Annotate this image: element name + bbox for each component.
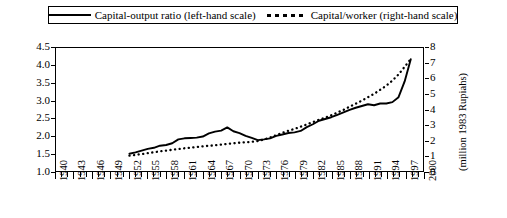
- y-axis-left-tick-label: 2.0: [24, 130, 50, 141]
- y-axis-right-tick-mark: [425, 125, 429, 126]
- x-axis-tick-mark: [424, 172, 425, 179]
- x-axis-tick-mark: [276, 172, 277, 179]
- x-axis-tick-mark: [147, 172, 148, 179]
- x-axis-tick-label: 1952: [133, 160, 144, 181]
- y-axis-right-tick-label: 4: [430, 104, 442, 115]
- x-axis-tick-mark: [258, 172, 259, 179]
- x-axis-tick-label: 1973: [262, 160, 273, 181]
- y-axis-right-tick-mark: [425, 141, 429, 142]
- x-axis-tick-label: 1967: [225, 160, 236, 181]
- x-axis-tick-label: 2000: [428, 160, 439, 181]
- legend-label-capital-per-worker: Capital/worker (right-hand scale): [311, 10, 458, 21]
- x-axis-tick-label: 1976: [280, 160, 291, 181]
- y-axis-right-tick-label: 7: [430, 57, 442, 68]
- x-axis-tick-mark: [406, 172, 407, 179]
- x-axis-tick-label: 1949: [114, 160, 125, 181]
- series-line-capital-per-worker: [129, 59, 410, 156]
- x-axis-tick-mark: [240, 172, 241, 179]
- x-axis-tick-mark: [350, 172, 351, 179]
- y-axis-right-tick-mark: [425, 63, 429, 64]
- x-axis-tick-label: 1943: [77, 160, 88, 181]
- x-axis-tick-label: 1970: [244, 160, 255, 181]
- series-line-capital-output-ratio: [129, 59, 410, 154]
- y-axis-right-tick-mark: [425, 94, 429, 95]
- x-axis-tick-mark: [313, 172, 314, 179]
- x-axis-tick-mark: [166, 172, 167, 179]
- y-axis-right-tick-mark: [425, 156, 429, 157]
- plot-svg: [56, 48, 423, 171]
- y-axis-left-tick-label: 4.5: [24, 41, 50, 52]
- x-axis-tick-mark: [73, 172, 74, 179]
- y-axis-left-tick-label: 1.0: [24, 166, 50, 177]
- figure: Capital-output ratio (left-hand scale) C…: [0, 0, 507, 218]
- x-axis-tick-label: 1979: [299, 160, 310, 181]
- x-axis-tick-label: 1982: [317, 160, 328, 181]
- x-axis-tick-label: 1994: [391, 160, 402, 181]
- y-axis-right-tick-label: 6: [430, 72, 442, 83]
- x-axis-tick-label: 1964: [207, 160, 218, 181]
- y-axis-left-tick-label: 3.5: [24, 77, 50, 88]
- x-axis-tick-label: 1988: [354, 160, 365, 181]
- x-axis-tick-label: 1997: [410, 160, 421, 181]
- y-axis-left: 1.01.52.02.53.03.54.04.5: [22, 47, 50, 172]
- y-axis-right-tick-mark: [425, 47, 429, 48]
- x-axis-tick-label: 1961: [188, 160, 199, 181]
- x-axis-tick-label: 1958: [170, 160, 181, 181]
- y-axis-right-tick-label: 5: [430, 88, 442, 99]
- y-axis-left-tick-label: 4.0: [24, 59, 50, 70]
- x-axis-tick-mark: [203, 172, 204, 179]
- y-axis-right-tick-label: 3: [430, 119, 442, 130]
- solid-line-swatch-icon: [49, 14, 91, 16]
- x-axis-tick-mark: [221, 172, 222, 179]
- x-axis-tick-mark: [369, 172, 370, 179]
- x-axis-tick-mark: [110, 172, 111, 179]
- y-axis-left-tick-label: 3.0: [24, 95, 50, 106]
- x-axis-tick-label: 1955: [151, 160, 162, 181]
- x-axis-tick-mark: [387, 172, 388, 179]
- y-axis-right-title-text: (million 1983 Rupiahs): [456, 157, 469, 171]
- plot-area: [55, 47, 424, 172]
- y-axis-right-title: (million 1983 Rupiahs): [456, 47, 470, 172]
- x-axis-tick-mark: [55, 172, 56, 179]
- dotted-line-swatch-icon: [265, 14, 307, 17]
- legend-entry-capital-per-worker: Capital/worker (right-hand scale): [265, 10, 458, 21]
- chart-legend: Capital-output ratio (left-hand scale) C…: [48, 6, 458, 24]
- y-axis-left-tick-label: 1.5: [24, 148, 50, 159]
- y-axis-right-tick-mark: [425, 110, 429, 111]
- x-axis-tick-mark: [184, 172, 185, 179]
- x-axis: 1940194319461949195219551958196119641967…: [55, 172, 424, 218]
- x-axis-tick-mark: [129, 172, 130, 179]
- y-axis-right-tick-label: 2: [430, 135, 442, 146]
- y-axis-right: 012345678: [430, 47, 444, 172]
- x-axis-tick-label: 1940: [59, 160, 70, 181]
- legend-label-capital-output-ratio: Capital-output ratio (left-hand scale): [95, 10, 256, 21]
- y-axis-right-tick-label: 8: [430, 41, 442, 52]
- y-axis-right-tick-mark: [425, 78, 429, 79]
- x-axis-tick-label: 1985: [336, 160, 347, 181]
- legend-entry-capital-output-ratio: Capital-output ratio (left-hand scale): [49, 10, 256, 21]
- x-axis-tick-mark: [295, 172, 296, 179]
- x-axis-tick-label: 1946: [96, 160, 107, 181]
- x-axis-tick-mark: [92, 172, 93, 179]
- x-axis-tick-label: 1991: [373, 160, 384, 181]
- y-axis-left-tick-label: 2.5: [24, 112, 50, 123]
- x-axis-tick-mark: [332, 172, 333, 179]
